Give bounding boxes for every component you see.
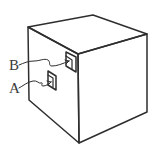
opening-a-frame xyxy=(48,71,56,90)
cube-top-face xyxy=(28,15,147,54)
label-a: A xyxy=(9,81,20,96)
cube-outline xyxy=(28,15,147,143)
opening-a xyxy=(48,71,56,90)
label-b: B xyxy=(9,58,19,73)
cube-right-face xyxy=(78,34,147,143)
leader-b xyxy=(19,59,69,66)
cube-diagram: B A xyxy=(0,0,157,159)
leader-a xyxy=(19,81,51,88)
leader-b-line xyxy=(19,59,69,66)
cube-drawing xyxy=(0,0,157,159)
leader-a-line xyxy=(19,81,51,88)
